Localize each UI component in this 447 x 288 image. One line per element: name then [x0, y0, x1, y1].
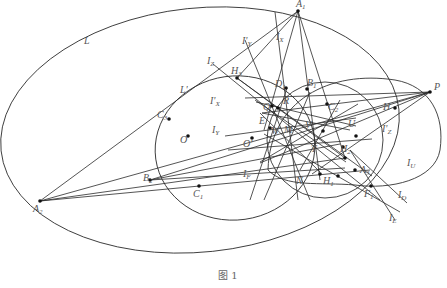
label-IpX: I'X: [209, 95, 220, 108]
label-A3: A3: [359, 164, 370, 177]
label-M: M: [283, 124, 293, 135]
label-Q: Q: [263, 101, 271, 112]
label-B2: B2: [143, 172, 153, 185]
label-H: H: [382, 101, 391, 112]
label-C1: C1: [193, 188, 203, 201]
label-IE: IE: [388, 212, 397, 225]
label-L: L: [83, 35, 90, 46]
label-H1: H1: [322, 175, 334, 188]
label-O: O: [180, 134, 187, 145]
label-E: E: [258, 115, 265, 126]
label-N: N: [295, 175, 304, 186]
label-P: P: [433, 81, 440, 92]
ellipse-L: [0, 0, 412, 272]
line: [264, 11, 298, 130]
label-A2: A2: [32, 203, 43, 216]
label-R: R: [282, 95, 289, 106]
line: [245, 92, 430, 98]
label-U: U: [348, 118, 356, 129]
label-IF: IF: [242, 168, 251, 181]
label-ID: ID: [397, 189, 406, 202]
label-IZ: IZ: [206, 55, 214, 68]
label-V: V: [305, 119, 313, 130]
label-IX: IX: [275, 31, 284, 44]
ellipse-L-prime: [146, 66, 324, 231]
figure-caption: 图 1: [218, 270, 238, 281]
label-IU: IU: [406, 157, 416, 170]
label-IpY: I'Y: [241, 35, 252, 48]
label-IY: IY: [211, 124, 220, 137]
label-O-prime: O': [243, 138, 253, 149]
label-F1: F1: [363, 188, 374, 201]
label-L-prime: L': [179, 84, 189, 95]
label-A1: A1: [295, 0, 306, 11]
geometry-diagram: L L' IZ I'Y IX A1 H3 D1 B1 C3 Q R C2 H P…: [0, 0, 447, 288]
